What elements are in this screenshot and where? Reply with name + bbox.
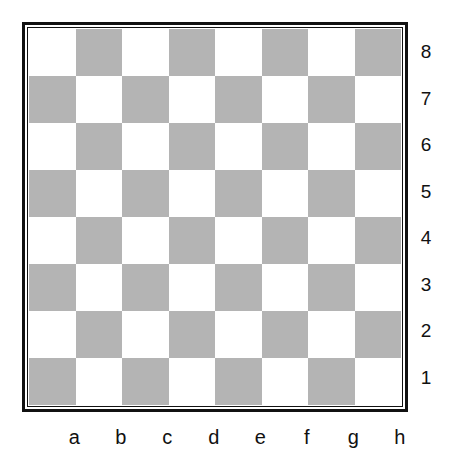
square-h6[interactable] (355, 123, 402, 170)
square-c4[interactable] (122, 217, 169, 264)
square-d2[interactable] (169, 311, 216, 358)
rank-label: 5 (413, 182, 439, 202)
file-label: d (191, 426, 237, 448)
square-g8[interactable] (308, 29, 355, 76)
square-h3[interactable] (355, 264, 402, 311)
square-d1[interactable] (169, 358, 216, 405)
square-b1[interactable] (76, 358, 123, 405)
square-f5[interactable] (262, 170, 309, 217)
square-e2[interactable] (215, 311, 262, 358)
rank-label: 2 (413, 321, 439, 341)
square-c1[interactable] (122, 358, 169, 405)
square-c2[interactable] (122, 311, 169, 358)
square-g4[interactable] (308, 217, 355, 264)
square-c6[interactable] (122, 123, 169, 170)
file-label: h (377, 426, 423, 448)
square-h5[interactable] (355, 170, 402, 217)
square-f3[interactable] (262, 264, 309, 311)
square-c7[interactable] (122, 76, 169, 123)
square-f7[interactable] (262, 76, 309, 123)
square-g3[interactable] (308, 264, 355, 311)
file-label: a (51, 426, 97, 448)
square-d6[interactable] (169, 123, 216, 170)
square-e8[interactable] (215, 29, 262, 76)
rank-label: 6 (413, 135, 439, 155)
rank-label: 1 (413, 368, 439, 388)
square-d8[interactable] (169, 29, 216, 76)
square-c8[interactable] (122, 29, 169, 76)
square-e3[interactable] (215, 264, 262, 311)
rank-label: 3 (413, 275, 439, 295)
square-a5[interactable] (29, 170, 76, 217)
square-a3[interactable] (29, 264, 76, 311)
board-inner-frame (27, 27, 403, 407)
square-f6[interactable] (262, 123, 309, 170)
square-f4[interactable] (262, 217, 309, 264)
chess-board[interactable] (29, 29, 401, 405)
square-h7[interactable] (355, 76, 402, 123)
square-a8[interactable] (29, 29, 76, 76)
square-e6[interactable] (215, 123, 262, 170)
square-d7[interactable] (169, 76, 216, 123)
square-f1[interactable] (262, 358, 309, 405)
square-d5[interactable] (169, 170, 216, 217)
file-label: f (284, 426, 330, 448)
square-g1[interactable] (308, 358, 355, 405)
square-c3[interactable] (122, 264, 169, 311)
rank-label: 8 (413, 42, 439, 62)
square-b5[interactable] (76, 170, 123, 217)
square-a4[interactable] (29, 217, 76, 264)
file-label: e (237, 426, 283, 448)
square-d4[interactable] (169, 217, 216, 264)
square-f2[interactable] (262, 311, 309, 358)
square-h2[interactable] (355, 311, 402, 358)
square-b6[interactable] (76, 123, 123, 170)
square-e4[interactable] (215, 217, 262, 264)
rank-label: 7 (413, 89, 439, 109)
square-g7[interactable] (308, 76, 355, 123)
square-b7[interactable] (76, 76, 123, 123)
square-h4[interactable] (355, 217, 402, 264)
square-a6[interactable] (29, 123, 76, 170)
square-b4[interactable] (76, 217, 123, 264)
board-frame (22, 22, 408, 412)
square-e7[interactable] (215, 76, 262, 123)
square-h8[interactable] (355, 29, 402, 76)
square-h1[interactable] (355, 358, 402, 405)
square-f8[interactable] (262, 29, 309, 76)
square-b2[interactable] (76, 311, 123, 358)
square-e1[interactable] (215, 358, 262, 405)
square-a1[interactable] (29, 358, 76, 405)
square-b3[interactable] (76, 264, 123, 311)
square-a2[interactable] (29, 311, 76, 358)
file-label: g (330, 426, 376, 448)
square-g6[interactable] (308, 123, 355, 170)
square-g5[interactable] (308, 170, 355, 217)
square-g2[interactable] (308, 311, 355, 358)
file-label: b (98, 426, 144, 448)
rank-label: 4 (413, 228, 439, 248)
square-a7[interactable] (29, 76, 76, 123)
square-d3[interactable] (169, 264, 216, 311)
square-c5[interactable] (122, 170, 169, 217)
square-b8[interactable] (76, 29, 123, 76)
file-label: c (144, 426, 190, 448)
square-e5[interactable] (215, 170, 262, 217)
